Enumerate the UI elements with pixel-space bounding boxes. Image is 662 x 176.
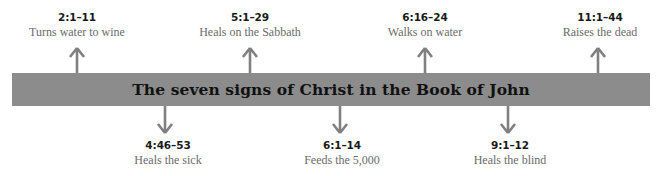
sign-description: Raises the dead	[563, 24, 638, 40]
sign-description: Walks on water	[388, 24, 462, 40]
sign-reference: 5:1–29	[199, 10, 301, 24]
arrow-up-icon	[589, 47, 607, 74]
sign-label-below: 6:1–14 Feeds the 5,000	[304, 138, 380, 168]
sign-label-above: 2:1–11 Turns water to wine	[29, 10, 125, 40]
sign-description: Feeds the 5,000	[304, 152, 380, 168]
arrow-up-icon	[68, 47, 86, 74]
sign-reference: 6:1–14	[304, 138, 380, 152]
arrow-down-icon	[331, 106, 349, 134]
sign-label-below: 9:1–12 Heals the blind	[474, 138, 547, 168]
sign-label-above: 5:1–29 Heals on the Sabbath	[199, 10, 301, 40]
sign-reference: 9:1–12	[474, 138, 547, 152]
arrow-up-icon	[241, 47, 259, 74]
sign-reference: 11:1–44	[563, 10, 638, 24]
sign-label-below: 4:46–53 Heals the sick	[134, 138, 201, 168]
sign-reference: 6:16–24	[388, 10, 462, 24]
arrow-down-icon	[156, 106, 174, 134]
sign-description: Heals on the Sabbath	[199, 24, 301, 40]
sign-description: Turns water to wine	[29, 24, 125, 40]
arrow-up-icon	[416, 47, 434, 74]
sign-reference: 2:1–11	[29, 10, 125, 24]
timeline-diagram: The seven signs of Christ in the Book of…	[0, 0, 662, 176]
arrow-down-icon	[499, 106, 517, 134]
banner-title: The seven signs of Christ in the Book of…	[132, 80, 530, 99]
sign-description: Heals the blind	[474, 152, 547, 168]
sign-label-above: 11:1–44 Raises the dead	[563, 10, 638, 40]
sign-description: Heals the sick	[134, 152, 201, 168]
timeline-banner: The seven signs of Christ in the Book of…	[12, 73, 650, 106]
sign-reference: 4:46–53	[134, 138, 201, 152]
sign-label-above: 6:16–24 Walks on water	[388, 10, 462, 40]
